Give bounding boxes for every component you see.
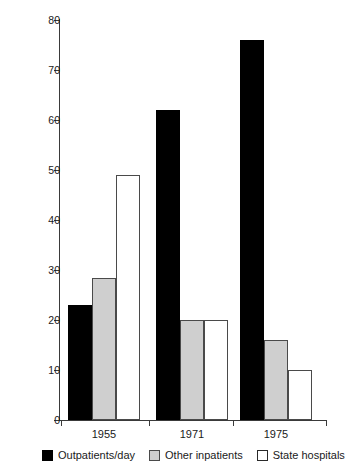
- white-swatch-icon: [257, 450, 268, 461]
- legend-item: Outpatients/day: [42, 449, 135, 461]
- y-tick-label: 30: [26, 265, 60, 275]
- plot-area: [60, 20, 325, 420]
- bar-group: [156, 20, 228, 420]
- y-tick-label: 40: [26, 215, 60, 225]
- bar: [68, 305, 92, 420]
- bar-group: [240, 20, 312, 420]
- gray-swatch-icon: [149, 450, 160, 461]
- bar: [240, 40, 264, 420]
- legend-label: State hospitals: [273, 449, 345, 461]
- bar: [156, 110, 180, 420]
- legend-item: Other inpatients: [149, 449, 243, 461]
- y-tick-label: 80: [26, 15, 60, 25]
- bar-group: [68, 20, 140, 420]
- chart-legend: Outpatients/dayOther inpatientsState hos…: [42, 449, 345, 461]
- bar: [264, 340, 288, 420]
- bar: [180, 320, 204, 420]
- x-category-label: 1975: [236, 428, 316, 440]
- y-tick-label: 50: [26, 165, 60, 175]
- x-tick-mark: [61, 421, 62, 426]
- y-tick-label: 60: [26, 115, 60, 125]
- bar: [288, 370, 312, 420]
- y-tick-label: 70: [26, 65, 60, 75]
- bar: [116, 175, 140, 420]
- x-tick-mark: [149, 421, 150, 426]
- legend-label: Other inpatients: [165, 449, 243, 461]
- bar: [92, 278, 116, 421]
- y-tick-label: 20: [26, 315, 60, 325]
- y-tick-label: 10: [26, 365, 60, 375]
- bar: [204, 320, 228, 420]
- black-swatch-icon: [42, 450, 53, 461]
- x-tick-mark: [233, 421, 234, 426]
- x-category-label: 1971: [152, 428, 232, 440]
- x-category-label: 1955: [64, 428, 144, 440]
- x-axis-line: [59, 420, 327, 421]
- legend-label: Outpatients/day: [58, 449, 135, 461]
- y-tick-label: 0: [26, 415, 60, 425]
- legend-item: State hospitals: [257, 449, 345, 461]
- x-tick-mark: [326, 421, 327, 426]
